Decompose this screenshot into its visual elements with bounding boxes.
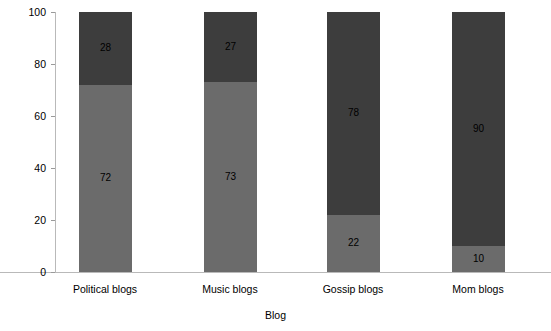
bar-value-label-upper: 90 [452,123,505,135]
bar-group-political-blogs[interactable]: 72 28 [79,12,132,272]
bar-group-gossip-blogs[interactable]: 22 78 [327,12,380,272]
y-tick-mark-0 [51,272,55,273]
bar-group-music-blogs[interactable]: 73 27 [204,12,257,272]
stacked-bar-chart: Percentage 100 80 60 40 20 0 72 28 73 27 [0,0,551,331]
x-axis-line [0,272,551,273]
bar-value-label-lower: 10 [452,253,505,265]
bar-group-mom-blogs[interactable]: 10 90 [452,12,505,272]
bar-value-label-upper: 27 [204,41,257,53]
bar-value-label-lower: 72 [79,172,132,184]
x-axis-title: Blog [0,308,551,322]
bar-value-label-lower: 73 [204,171,257,183]
x-tick-label-mom-blogs: Mom blogs [403,282,551,296]
bar-value-label-upper: 78 [327,107,380,119]
bar-value-label-upper: 28 [79,42,132,54]
bar-value-label-lower: 22 [327,237,380,249]
plot-area: 72 28 73 27 22 78 10 90 [0,12,551,272]
